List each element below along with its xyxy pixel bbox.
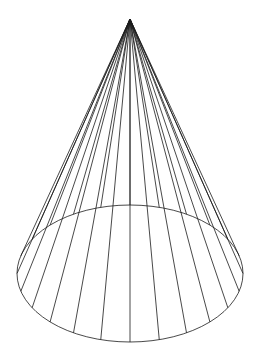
generator-line — [130, 19, 187, 333]
cone-generator-lines — [17, 19, 243, 342]
generator-line — [130, 19, 210, 225]
generator-line — [130, 19, 239, 256]
generator-line — [130, 19, 228, 239]
cone-drawing — [0, 0, 259, 361]
generator-line — [74, 19, 131, 333]
generator-line — [50, 19, 130, 322]
generator-line — [50, 19, 130, 225]
generator-line — [130, 19, 228, 308]
generator-line — [130, 19, 239, 291]
generator-line — [32, 19, 130, 239]
generator-line — [74, 19, 131, 214]
generator-line — [130, 19, 210, 322]
generator-line — [21, 19, 130, 291]
generator-line — [21, 19, 130, 256]
generator-line — [32, 19, 130, 308]
generator-line — [130, 19, 187, 214]
